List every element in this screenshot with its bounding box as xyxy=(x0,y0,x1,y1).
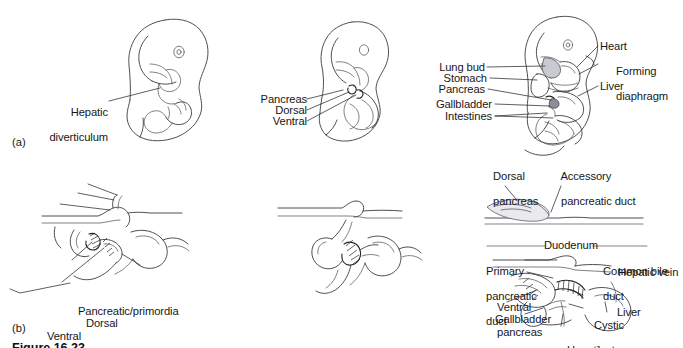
label-line: pancreatic duct xyxy=(561,195,635,207)
label-dorsal-b-left: Dorsal xyxy=(86,317,118,329)
label-hepatic-portal-vein: Hepatic portal vein xyxy=(549,332,618,348)
foregut-drawing-b-left xyxy=(0,150,250,348)
label-heart: Heart xyxy=(600,40,627,52)
panel-b-left: Pancreatic/primordia Dorsal Ventral Gall… xyxy=(0,150,250,348)
label-accessory-pancreatic-duct: Accessory pancreatic duct xyxy=(543,158,635,220)
label-liver-a-right: Liver xyxy=(600,80,624,92)
panel-b-right: Dorsal pancreas Accessory pancreatic duc… xyxy=(465,150,683,348)
label-line: Ventral xyxy=(497,301,531,313)
figure-caption: Figure 16.23 xyxy=(12,341,85,348)
label-line: diverticulum xyxy=(50,131,109,143)
label-line: Hepatic xyxy=(71,106,108,118)
panel-tag-a: (a) xyxy=(12,136,26,148)
label-line: duct xyxy=(603,290,624,302)
label-line: diaphragm xyxy=(616,90,668,102)
label-line: Forming xyxy=(616,65,656,77)
label-gallbladder-b-right: Gallbladder xyxy=(495,313,551,325)
label-line: Hepatic xyxy=(567,344,604,348)
panel-a-right: Lung bud Stomach Pancreas Gallbladder In… xyxy=(465,0,683,150)
label-hepatic-diverticulum-a-left: Hepatic diverticulum xyxy=(18,94,108,156)
panel-tag-b: (b) xyxy=(12,322,26,334)
label-line: pancreas xyxy=(493,195,538,207)
embryology-figure: Hepatic diverticulum (a) xyxy=(0,0,683,348)
label-intestines: Intestines xyxy=(417,110,492,122)
label-line: Primary xyxy=(486,265,524,277)
label-line: Cystic xyxy=(594,319,624,331)
label-dorsal-pancreas: Dorsal pancreas xyxy=(475,158,538,220)
panel-a-left: Hepatic diverticulum (a) xyxy=(0,0,250,150)
label-gallbladder-a-right: Gallbladder xyxy=(417,98,492,110)
label-duodenum: Duodenum xyxy=(544,239,598,251)
label-pancreas-a-right: Pancreas xyxy=(417,83,485,95)
label-ventral-a-middle: Ventral xyxy=(250,115,307,127)
label-liver-b-right: Liver xyxy=(617,306,641,318)
panel-b-middle xyxy=(250,150,465,348)
label-line: Dorsal xyxy=(493,170,525,182)
label-pancreatic-primordia: Pancreatic/primordia xyxy=(78,305,179,317)
label-hepatic-vein: Hepatic vein xyxy=(618,266,678,278)
foregut-drawing-b-middle xyxy=(250,150,465,348)
label-line: pancreas xyxy=(497,326,542,338)
label-line: Accessory xyxy=(560,170,611,182)
